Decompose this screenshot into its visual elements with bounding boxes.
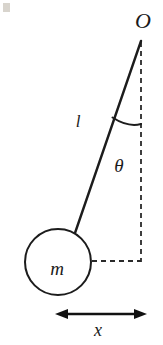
displacement-arrow-right-head — [134, 309, 147, 319]
displacement-arrow-left-head — [55, 309, 68, 319]
pivot-label: O — [135, 8, 151, 33]
displacement-label: x — [93, 320, 102, 340]
scan-artifact-speck — [3, 3, 10, 12]
pendulum-rod — [75, 41, 141, 233]
length-label: l — [76, 112, 81, 131]
angle-label: θ — [114, 155, 123, 176]
theta-angle-arc — [113, 118, 142, 125]
pendulum-figure: O l θ m x — [0, 0, 163, 345]
pendulum-diagram-canvas: O l θ m x — [0, 0, 163, 345]
mass-label: m — [50, 258, 64, 279]
